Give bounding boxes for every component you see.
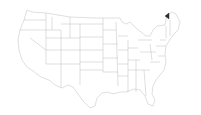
us-map — [0, 0, 201, 115]
states — [18, 10, 180, 108]
us-outline — [18, 10, 180, 108]
